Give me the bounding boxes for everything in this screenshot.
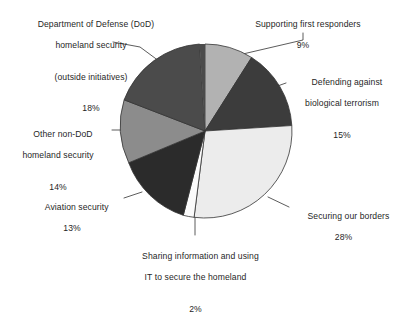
label-defending-biological-terrorism: Defending against biological terrorism 1… [290, 66, 394, 161]
label-supporting-first-responders: Supporting first responders 9% [213, 8, 393, 72]
label-dod-percent: 18% [2, 103, 180, 114]
label-borders-line1: Securing our borders [307, 211, 389, 221]
label-sharing-line1: Sharing information and using [142, 251, 259, 261]
label-responders-percent: 9% [213, 40, 393, 51]
label-othernondod-line2: homeland security [8, 150, 108, 161]
label-dod-line3: (outside initiatives) [2, 72, 180, 83]
label-borders-percent: 28% [293, 232, 394, 243]
label-bioterror-line2: biological terrorism [290, 98, 394, 109]
label-dod-line2: homeland security [2, 40, 180, 51]
label-dod-homeland-security: Department of Defense (DoD) homeland sec… [2, 8, 180, 135]
label-other-non-dod: Other non-DoD homeland security 14% [8, 118, 108, 213]
pie-slice-securing-our-borders [194, 126, 292, 218]
leader-line-aviation [124, 192, 142, 198]
label-sharing-line2: IT to secure the homeland [108, 272, 283, 283]
label-sharing-percent: 2% [108, 304, 283, 315]
label-bioterror-line1: Defending against [312, 77, 383, 87]
label-securing-our-borders: Securing our borders 28% [293, 200, 394, 264]
leader-line-borders [268, 197, 289, 207]
label-responders-line1: Supporting first responders [255, 19, 361, 29]
label-bioterror-percent: 15% [290, 130, 394, 141]
label-sharing-information: Sharing information and using IT to secu… [108, 240, 283, 316]
label-othernondod-line1: Other non-DoD [33, 129, 92, 139]
label-othernondod-percent: 14% [8, 182, 108, 193]
label-dod-line1: Department of Defense (DoD) [38, 19, 154, 29]
label-aviation-percent: 13% [24, 223, 120, 234]
